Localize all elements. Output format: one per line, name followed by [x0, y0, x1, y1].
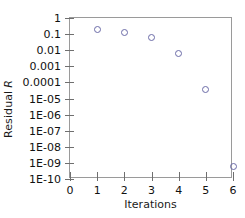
x-axis-tick-label: 0: [67, 184, 74, 197]
x-axis-tick-mark: [233, 172, 234, 181]
y-axis-tick-label: 1E-09: [29, 156, 61, 169]
y-axis-title-symbol: R: [2, 80, 15, 91]
x-axis-tick-label: 3: [148, 184, 155, 197]
y-axis-tick-label: 1E-08: [29, 140, 61, 153]
y-axis-tick-label: 0.001: [30, 60, 62, 73]
data-point: [148, 34, 155, 41]
y-axis-tick-label: 1E-05: [29, 92, 61, 105]
x-axis-tick-mark: [206, 172, 207, 181]
y-axis-tick-label: 1E-06: [29, 108, 61, 121]
x-axis-tick-mark: [70, 172, 71, 181]
x-axis-tick-mark: [179, 172, 180, 181]
y-axis-title: ResidualR: [0, 0, 16, 218]
data-point: [202, 86, 209, 93]
data-point: [230, 163, 237, 170]
x-axis-tick-mark: [97, 172, 98, 181]
y-axis-tick-mark: [65, 147, 74, 148]
plot-area: 10.10.010.0010.00011E-051E-061E-071E-081…: [69, 17, 232, 178]
y-axis-tick-mark: [65, 34, 74, 35]
y-axis-title-text: Residual: [2, 91, 15, 138]
y-axis-tick-label: 1: [54, 12, 61, 25]
y-axis-tick-label: 0.0001: [23, 76, 62, 89]
y-axis-tick-label: 0.1: [44, 28, 62, 41]
y-axis-tick-mark: [65, 131, 74, 132]
x-axis-title: Iterations: [69, 198, 232, 211]
x-axis-tick-mark: [124, 172, 125, 181]
y-axis-tick-mark: [65, 18, 74, 19]
y-axis-tick-mark: [65, 66, 74, 67]
y-axis-tick-label: 0.01: [37, 44, 62, 57]
x-axis-tick-mark: [152, 172, 153, 181]
y-axis-tick-mark: [65, 163, 74, 164]
x-axis-tick-label: 4: [175, 184, 182, 197]
y-axis-tick-mark: [65, 82, 74, 83]
data-point: [175, 50, 182, 57]
x-axis-tick-label: 2: [121, 184, 128, 197]
x-axis-tick-label: 6: [230, 184, 237, 197]
y-axis-tick-label: 1E-07: [29, 124, 61, 137]
y-axis-tick-label: 1E-10: [29, 173, 61, 186]
x-axis-tick-label: 1: [94, 184, 101, 197]
y-axis-tick-mark: [65, 115, 74, 116]
data-point: [94, 26, 101, 33]
residual-convergence-chart: ResidualR 10.10.010.0010.00011E-051E-061…: [0, 0, 245, 218]
x-axis-tick-label: 5: [202, 184, 209, 197]
y-axis-tick-mark: [65, 99, 74, 100]
y-axis-tick-mark: [65, 50, 74, 51]
data-point: [121, 29, 128, 36]
